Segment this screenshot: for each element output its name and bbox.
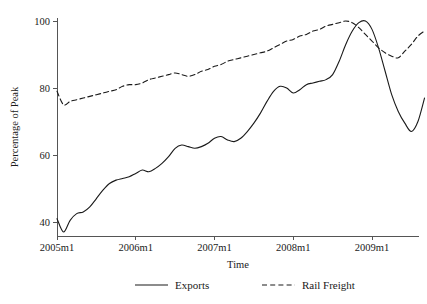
- x-axis-tick-labels: 2005m12006m12007m12008m12009m1: [40, 242, 389, 253]
- data-series-group: [57, 21, 425, 232]
- legend-label-rail-freight: Rail Freight: [302, 279, 355, 291]
- x-tick-label-2006m1: 2006m1: [119, 242, 153, 253]
- chart-figure: 406080100 2005m12006m12007m12008m12009m1…: [0, 0, 427, 304]
- x-tick-label-2009m1: 2009m1: [355, 242, 389, 253]
- y-tick-label-80: 80: [40, 83, 51, 94]
- legend-label-exports: Exports: [175, 279, 209, 291]
- x-tick-label-2008m1: 2008m1: [276, 242, 310, 253]
- series-line-rail-freight: [57, 21, 425, 105]
- y-tick-label-40: 40: [40, 217, 51, 228]
- y-axis-tick-labels: 406080100: [34, 16, 50, 228]
- plot-area: 406080100 2005m12006m12007m12008m12009m1: [34, 16, 424, 253]
- x-tick-label-2005m1: 2005m1: [40, 242, 74, 253]
- y-tick-label-100: 100: [34, 16, 50, 27]
- chart-canvas: 406080100 2005m12006m12007m12008m12009m1…: [0, 0, 427, 304]
- chart-legend: ExportsRail Freight: [135, 279, 355, 291]
- series-line-exports: [57, 21, 425, 232]
- y-tick-label-60: 60: [40, 150, 51, 161]
- y-axis-title: Percentage of Peak: [9, 86, 20, 167]
- x-tick-label-2007m1: 2007m1: [197, 242, 231, 253]
- y-axis-ticks: [53, 21, 57, 222]
- x-axis-title: Time: [227, 259, 249, 270]
- x-axis-ticks: [57, 236, 372, 240]
